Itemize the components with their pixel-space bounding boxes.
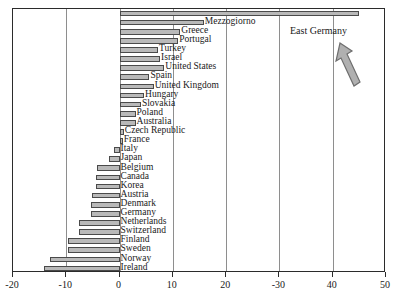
- bar: [120, 111, 136, 117]
- x-tick-mark: [172, 272, 173, 277]
- x-tick-label: -20: [0, 280, 32, 290]
- bar: [120, 74, 150, 80]
- bar-label: Ireland: [121, 263, 148, 273]
- x-tick-label: 10: [152, 280, 192, 290]
- bar: [68, 238, 119, 244]
- bar: [120, 93, 145, 99]
- x-tick-label: -30: [258, 280, 298, 290]
- x-tick-mark: [225, 272, 226, 277]
- bar: [120, 47, 158, 53]
- x-tick-mark: [332, 272, 333, 277]
- bar: [114, 147, 119, 153]
- bar-label: Mezzogiorno: [205, 17, 256, 27]
- x-tick-mark: [385, 272, 386, 277]
- bar: [96, 175, 119, 181]
- bar: [91, 211, 120, 217]
- x-tick-mark: [12, 272, 13, 277]
- x-tick-label: 20: [205, 280, 245, 290]
- bar: [120, 56, 160, 62]
- bar: [44, 266, 119, 272]
- bar: [96, 184, 119, 190]
- gridline: [66, 9, 67, 271]
- bar: [79, 229, 119, 235]
- bar: [97, 165, 119, 171]
- x-tick-label: 0: [99, 280, 139, 290]
- x-tick-mark: [65, 272, 66, 277]
- x-tick-mark: [119, 272, 120, 277]
- bar: [91, 202, 120, 208]
- east-germany-arrow-icon: [330, 37, 380, 97]
- bar: [68, 247, 119, 253]
- bar: [92, 193, 120, 199]
- bar-label: United States: [165, 62, 216, 72]
- bar: [109, 156, 120, 162]
- bar-chart: MezzogiornoGreecePortugalTurkeyIsraelUni…: [0, 0, 399, 300]
- east-germany-annotation-label: East Germany: [290, 26, 347, 36]
- gridline: [226, 9, 227, 271]
- bar: [120, 29, 181, 35]
- bar: [50, 257, 120, 263]
- gridline: [279, 9, 280, 271]
- x-tick-mark: [278, 272, 279, 277]
- x-tick-label: 50: [365, 280, 399, 290]
- x-tick-label: 40: [312, 280, 352, 290]
- bar: [79, 220, 119, 226]
- x-tick-label: -10: [45, 280, 85, 290]
